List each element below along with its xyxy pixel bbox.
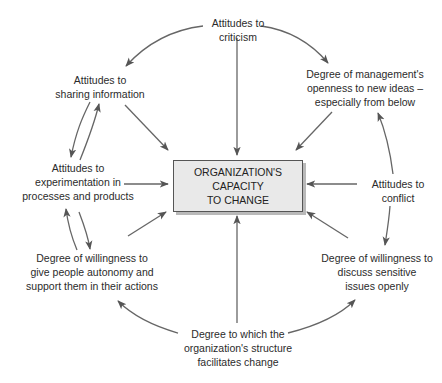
node-attitudes-to-experimentation: Attitudes to experimentation in processe… bbox=[8, 161, 148, 203]
node-line: Attitudes to bbox=[8, 161, 148, 175]
diagram-canvas: ORGANIZATION'S CAPACITY TO CHANGE Attitu… bbox=[0, 0, 442, 383]
arrow-autonomy-to-center bbox=[128, 212, 166, 236]
node-line: processes and products bbox=[8, 189, 148, 203]
node-line: support them in their actions bbox=[12, 279, 172, 293]
center-node-organization-capacity: ORGANIZATION'S CAPACITY TO CHANGE bbox=[173, 160, 303, 212]
node-line: especially from below bbox=[290, 95, 440, 109]
arrow-sharing-to-center bbox=[125, 105, 168, 150]
node-line: openness to new ideas – bbox=[290, 81, 440, 95]
center-line: TO CHANGE bbox=[207, 193, 269, 207]
node-line: conflict bbox=[358, 191, 438, 205]
node-line: Attitudes to bbox=[188, 16, 288, 30]
node-line: experimentation in bbox=[8, 175, 148, 189]
arrow-conflict-to-management bbox=[378, 113, 393, 174]
node-line: Attitudes to bbox=[358, 177, 438, 191]
node-attitudes-to-criticism: Attitudes to criticism bbox=[188, 16, 288, 44]
node-management-openness: Degree of management's openness to new i… bbox=[290, 67, 440, 109]
node-line: issues openly bbox=[312, 279, 442, 293]
arrow-autonomy-to-experimentation bbox=[66, 209, 77, 250]
node-line: Degree to which the bbox=[163, 327, 313, 341]
node-line: Degree of willingness to bbox=[312, 251, 442, 265]
node-attitudes-to-conflict: Attitudes to conflict bbox=[358, 177, 438, 205]
node-line: Degree of willingness to bbox=[12, 251, 172, 265]
node-willingness-autonomy: Degree of willingness to give people aut… bbox=[12, 251, 172, 293]
node-line: Attitudes to bbox=[40, 73, 160, 87]
arrow-sharing-to-experimentation bbox=[71, 102, 90, 157]
arrow-conflict-to-sensitive bbox=[385, 206, 390, 245]
node-line: sharing information bbox=[40, 87, 160, 101]
node-line: Degree of management's bbox=[290, 67, 440, 81]
node-willingness-sensitive-issues: Degree of willingness to discuss sensiti… bbox=[312, 251, 442, 293]
node-line: facilitates change bbox=[163, 355, 313, 369]
node-attitudes-to-sharing-information: Attitudes to sharing information bbox=[40, 73, 160, 101]
node-line: criticism bbox=[188, 30, 288, 44]
center-line: CAPACITY bbox=[212, 179, 264, 193]
node-line: give people autonomy and bbox=[12, 265, 172, 279]
arrow-experimentation-to-sharing bbox=[80, 104, 99, 160]
node-line: discuss sensitive bbox=[312, 265, 442, 279]
node-organization-structure: Degree to which the organization's struc… bbox=[163, 327, 313, 369]
arrow-sensitive-to-center bbox=[307, 212, 348, 238]
arrow-experimentation-to-autonomy bbox=[79, 212, 90, 249]
arrow-management-to-center bbox=[296, 112, 332, 150]
node-line: organization's structure bbox=[163, 341, 313, 355]
center-line: ORGANIZATION'S bbox=[194, 165, 282, 179]
